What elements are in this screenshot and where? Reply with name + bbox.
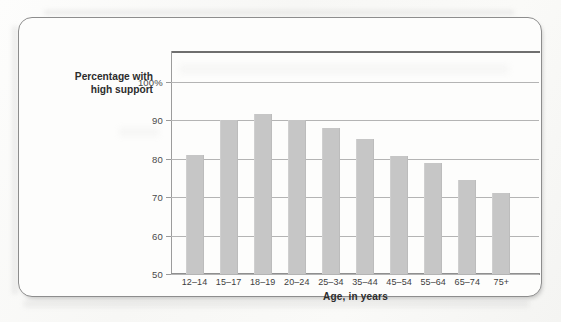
x-axis-label-18-19: 18–19 [250,277,276,287]
x-axis-label-65-74: 65–74 [455,277,481,287]
gridline-y-50 [171,274,539,275]
y-axis-label-60: 60 [152,230,163,241]
bar-18-19[interactable] [254,114,272,274]
bar-45-54[interactable] [390,156,408,274]
bar-75+[interactable] [492,193,510,274]
x-axis-label-12-14: 12–14 [182,277,208,287]
x-axis-label-45-54: 45–54 [386,277,412,287]
x-axis-label-25-34: 25–34 [318,277,344,287]
scan-artifact-interior [119,128,159,136]
bar-15-17[interactable] [220,120,238,274]
y-axis-label-100: 100% [138,76,163,87]
bar-35-44[interactable] [356,139,374,274]
y-tick-50 [166,274,171,275]
y-tick-90 [166,120,171,121]
x-axis-label-55-64: 55–64 [420,277,446,287]
y-tick-60 [166,236,171,237]
y-tick-80 [166,159,171,160]
x-axis-label-15-17: 15–17 [216,277,242,287]
y-axis-label-90: 90 [152,115,163,126]
bar-55-64[interactable] [424,163,442,275]
y-axis-label-80: 80 [152,153,163,164]
y-axis-label-70: 70 [152,192,163,203]
bar-20-24[interactable] [288,120,306,274]
y-tick-70 [166,197,171,198]
gridline-y-100 [171,82,539,83]
y-tick-100 [166,82,171,83]
bar-25-34[interactable] [322,128,340,274]
x-axis-label-75+: 75+ [494,277,510,287]
bar-65-74[interactable] [458,180,476,274]
x-axis-label-35-44: 35–44 [352,277,378,287]
bar-chart-plot-area: 5060708090100%12–1415–1718–1920–2425–343… [171,51,539,274]
bar-12-14[interactable] [186,155,204,274]
x-axis-label-20-24: 20–24 [284,277,310,287]
x-axis-title: Age, in years [171,291,540,302]
y-axis-label-50: 50 [152,269,163,280]
figure-frame: Percentage with high support 50607080901… [18,17,542,297]
